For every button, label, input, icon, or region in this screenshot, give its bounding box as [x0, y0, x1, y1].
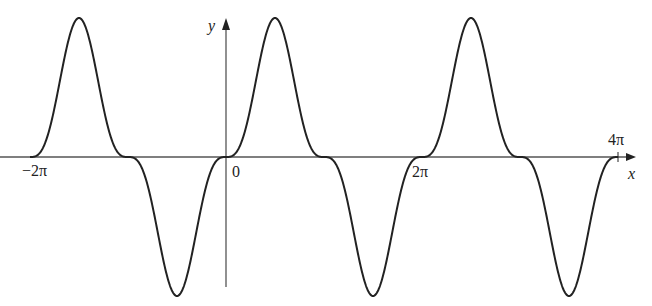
- x-axis-label: x: [628, 166, 635, 182]
- x-axis-arrow-icon: [626, 153, 636, 161]
- function-graph: [0, 0, 652, 306]
- origin-label: 0: [232, 164, 240, 180]
- y-axis-label: y: [208, 18, 215, 34]
- y-axis-arrow-icon: [222, 18, 230, 30]
- tick-label-4pi: 4π: [608, 132, 624, 148]
- tick-label-2pi: 2π: [412, 164, 428, 180]
- tick-label-neg-2pi: −2π: [22, 163, 47, 179]
